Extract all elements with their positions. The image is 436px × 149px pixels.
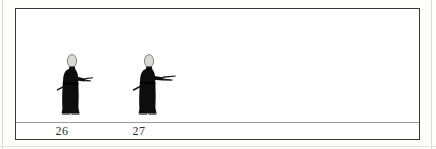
scanned-page: 26 27 [0,0,436,149]
illustration-plate: 26 27 [15,8,420,140]
figure-27 [126,54,180,120]
figure-26 [49,54,103,120]
page-edge-left [2,0,3,149]
robed-figure-icon [126,54,180,120]
figure-label-row: 26 27 [16,123,419,140]
page-edge-right [431,0,432,149]
robed-figure-icon [49,54,103,120]
page-edge-bottom [0,146,436,147]
plate-interior: 26 27 [16,9,419,139]
figure-label-27: 27 [127,124,151,139]
figure-label-26: 26 [50,124,74,139]
